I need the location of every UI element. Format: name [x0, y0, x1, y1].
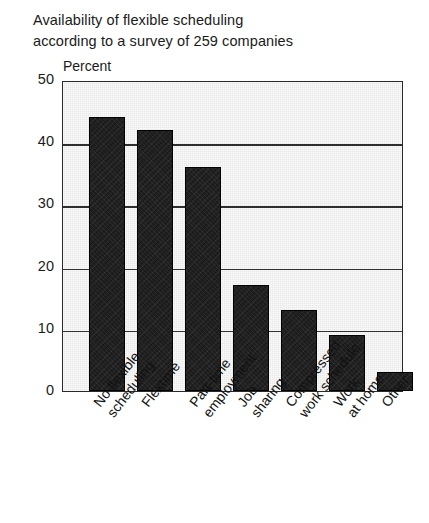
bar-2	[137, 130, 173, 391]
bar-3	[185, 167, 221, 391]
y-tick-30: 30	[14, 195, 54, 211]
y-tick-40: 40	[14, 133, 54, 149]
y-axis-caption: Percent	[63, 58, 111, 74]
x-axis-tick-labels: No flexibleschedulingFlextimePart-timeem…	[0, 392, 429, 523]
y-tick-10: 10	[14, 320, 54, 336]
bar-1	[89, 117, 125, 391]
y-tick-20: 20	[14, 258, 54, 274]
y-tick-50: 50	[14, 71, 54, 87]
bar-chart: Percent 01020304050 No flexibleschedulin…	[0, 0, 429, 523]
